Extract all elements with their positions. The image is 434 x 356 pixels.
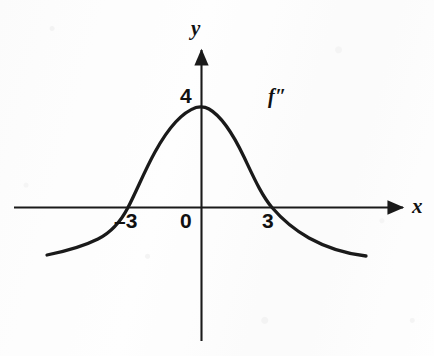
y-axis-label: y <box>191 18 200 39</box>
y-tick-label-4: 4 <box>180 85 192 106</box>
origin-label: 0 <box>180 210 192 231</box>
function-curve-f-double-prime <box>47 107 366 256</box>
curve-label-f-double-prime: f″ <box>268 86 287 106</box>
math-figure: y x 4 0 –3 3 f″ <box>0 0 434 356</box>
plot-canvas <box>0 0 434 356</box>
x-tick-label-positive-3: 3 <box>262 210 274 231</box>
x-tick-label-negative-3: –3 <box>114 210 137 231</box>
x-axis-label: x <box>412 196 423 217</box>
